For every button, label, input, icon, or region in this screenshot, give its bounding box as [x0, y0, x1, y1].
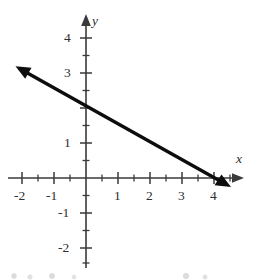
- x-tick-label-4: 4: [210, 189, 217, 203]
- x-tick-label-2: 2: [146, 189, 153, 203]
- y-tick-label-1: 1: [64, 136, 71, 150]
- y-axis-group: [80, 14, 92, 268]
- y-tick-label-minus1: -1: [58, 206, 69, 220]
- graph-figure: x y -2 -1 1 2 3 4 4 3 1 -1 -2: [0, 0, 253, 280]
- x-axis-arrowhead-icon: [232, 173, 244, 183]
- x-axis-label: x: [236, 152, 242, 166]
- page-scan-artifact: [0, 272, 253, 280]
- plotted-line: [23, 70, 222, 181]
- x-tick-label-1: 1: [114, 189, 121, 203]
- y-tick-label-4: 4: [64, 31, 71, 45]
- y-tick-label-minus2: -2: [58, 241, 69, 255]
- x-tick-label-3: 3: [178, 189, 185, 203]
- y-axis-arrowhead-icon: [81, 14, 91, 26]
- y-axis-label: y: [92, 14, 98, 28]
- x-tick-label-minus1: -1: [46, 189, 57, 203]
- x-tick-label-minus2: -2: [14, 189, 25, 203]
- plotted-line-group: [16, 66, 232, 187]
- coordinate-plane: [0, 0, 253, 280]
- y-tick-label-3: 3: [64, 66, 71, 80]
